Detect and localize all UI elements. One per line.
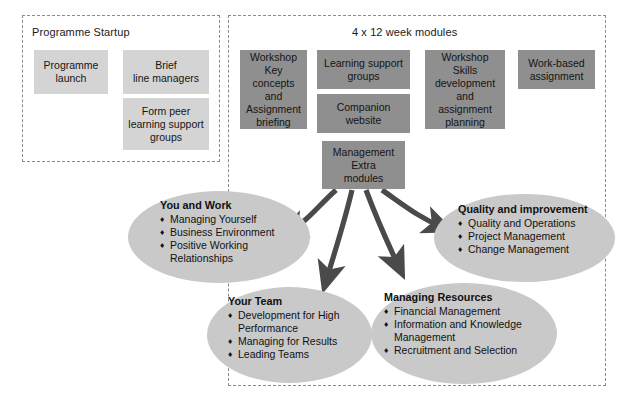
diamond-bullet-icon: ♦ [228, 348, 232, 361]
theme-you-and-work: You and Work ♦Managing Yourself♦Business… [160, 199, 310, 266]
theme-item: ♦Change Management [458, 243, 618, 256]
theme-managing-resources: Managing Resources ♦Financial Management… [384, 291, 554, 358]
box-form-peer-learning-support-groups: Form peer learning support groups [123, 98, 209, 150]
box-programme-launch: Programme launch [34, 50, 108, 94]
box-management-extra-modules: Management Extra modules [322, 141, 405, 189]
theme-item: ♦Development for High Performance [228, 309, 373, 335]
theme-title: You and Work [160, 199, 310, 212]
diamond-bullet-icon: ♦ [160, 239, 164, 252]
theme-item: ♦Information and Knowledge Management [384, 318, 554, 344]
theme-item: ♦Managing Yourself [160, 213, 310, 226]
diamond-bullet-icon: ♦ [458, 230, 462, 243]
theme-item: ♦Quality and Operations [458, 217, 618, 230]
theme-item-list: ♦Quality and Operations♦Project Manageme… [458, 217, 618, 257]
diamond-bullet-icon: ♦ [458, 243, 462, 256]
diamond-bullet-icon: ♦ [228, 335, 232, 348]
theme-title: Your Team [228, 295, 373, 308]
box-workshop-key-concepts: Workshop Key concepts and Assignment bri… [240, 50, 307, 129]
diamond-bullet-icon: ♦ [384, 344, 388, 357]
theme-item: ♦Project Management [458, 230, 618, 243]
box-brief-line-managers: Brief line managers [123, 50, 209, 94]
diamond-bullet-icon: ♦ [160, 213, 164, 226]
diamond-bullet-icon: ♦ [384, 305, 388, 318]
diamond-bullet-icon: ♦ [384, 318, 388, 331]
theme-quality-and-improvement: Quality and improvement ♦Quality and Ope… [458, 203, 618, 256]
theme-item: ♦Managing for Results [228, 335, 373, 348]
panel-title-week-modules: 4 x 12 week modules [352, 26, 457, 38]
box-workshop-skills-development: Workshop Skills development and assignme… [425, 50, 505, 129]
theme-item-list: ♦Financial Management♦Information and Kn… [384, 305, 554, 358]
diamond-bullet-icon: ♦ [458, 217, 462, 230]
box-work-based-assignment: Work-based assignment [518, 50, 595, 89]
panel-title-programme-startup: Programme Startup [32, 26, 130, 38]
theme-item: ♦Recruitment and Selection [384, 344, 554, 357]
theme-item: ♦Business Environment [160, 226, 310, 239]
box-learning-support-groups: Learning support groups [317, 50, 410, 89]
theme-item-list: ♦Development for High Performance♦Managi… [228, 309, 373, 362]
theme-title: Quality and improvement [458, 203, 618, 216]
theme-title: Managing Resources [384, 291, 554, 304]
theme-item: ♦Leading Teams [228, 348, 373, 361]
box-companion-website: Companion website [317, 94, 410, 133]
diamond-bullet-icon: ♦ [160, 226, 164, 239]
theme-your-team: Your Team ♦Development for High Performa… [228, 295, 373, 362]
theme-item-list: ♦Managing Yourself♦Business Environment♦… [160, 213, 310, 266]
diagram-canvas: Programme Startup 4 x 12 week modules Pr… [0, 0, 623, 410]
theme-item: ♦Financial Management [384, 305, 554, 318]
theme-item: ♦Positive Working Relationships [160, 239, 310, 265]
diamond-bullet-icon: ♦ [228, 309, 232, 322]
